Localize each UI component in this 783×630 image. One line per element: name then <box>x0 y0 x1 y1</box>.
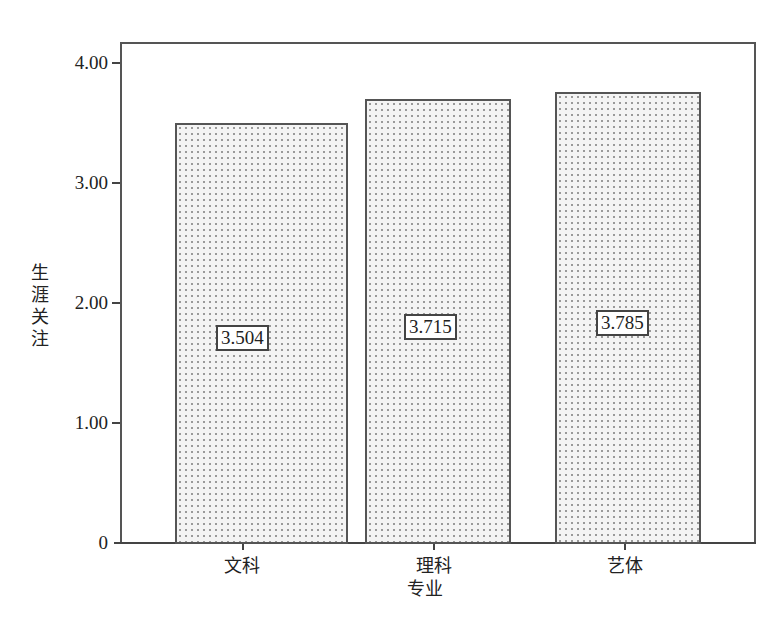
y-tick <box>112 62 120 64</box>
x-tick-label: 艺体 <box>585 551 665 577</box>
x-tick <box>624 544 626 550</box>
y-tick <box>112 182 120 184</box>
y-title-char: 生 <box>28 262 52 284</box>
x-axis-title: 专业 <box>385 574 465 600</box>
x-tick <box>433 544 435 550</box>
y-tick-label: 1.00 <box>8 413 108 433</box>
y-tick <box>112 422 120 424</box>
y-title-char: 涯 <box>28 284 52 306</box>
y-axis-title: 生 涯 关 注 <box>28 262 52 350</box>
bar-value-label: 3.715 <box>404 314 457 340</box>
y-title-char: 注 <box>28 328 52 350</box>
y-tick-label: 4.00 <box>8 53 108 73</box>
y-tick <box>112 302 120 304</box>
x-tick <box>242 544 244 550</box>
bar-value-label: 3.785 <box>596 310 649 336</box>
bar-value-label: 3.504 <box>216 325 269 351</box>
y-tick-label: 2.00 <box>8 293 108 313</box>
y-tick-label: 3.00 <box>8 173 108 193</box>
x-tick-label: 文科 <box>202 551 282 577</box>
y-tick-label: 0 <box>8 533 108 553</box>
y-title-char: 关 <box>28 306 52 328</box>
